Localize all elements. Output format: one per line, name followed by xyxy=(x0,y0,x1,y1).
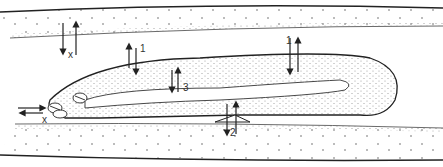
diagram-drawing xyxy=(0,0,443,167)
label-3: 3 xyxy=(183,83,189,93)
diagram: x x 1 1 3 2 xyxy=(0,0,443,167)
u-shaped-body xyxy=(49,54,397,118)
label-x-top: x xyxy=(68,50,73,60)
lower-wall xyxy=(0,124,443,161)
label-1-left: 1 xyxy=(140,44,146,54)
upper-wall xyxy=(0,6,443,38)
label-1-right: 1 xyxy=(286,36,292,46)
label-2: 2 xyxy=(230,128,236,138)
label-x-left: x xyxy=(42,115,47,125)
